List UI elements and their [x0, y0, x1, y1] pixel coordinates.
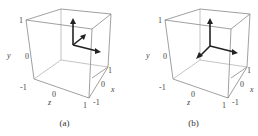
tick-x-mid: 0 — [240, 81, 244, 89]
z-arrow — [73, 37, 83, 45]
panel-a: 1 y 0 -1 0 z 1 -1 0 x 1 (a) — [0, 0, 129, 136]
axis-label-z: z — [187, 99, 190, 107]
axis-label-x: x — [250, 86, 254, 94]
tick-y-bot: -1 — [159, 84, 166, 92]
tick-x-start: -1 — [232, 99, 239, 107]
tick-x-end: 1 — [108, 67, 112, 75]
x-arrow — [73, 45, 97, 51]
tick-y-mid: 0 — [163, 53, 167, 61]
tick-x-start: -1 — [93, 99, 100, 107]
tick-z-mid: 0 — [191, 91, 195, 99]
tick-z-end: 1 — [83, 102, 87, 110]
caption-a: (a) — [0, 118, 129, 128]
axis-label-z: z — [48, 99, 51, 107]
axis-label-x: x — [111, 86, 115, 94]
tick-z-mid: 0 — [52, 91, 56, 99]
panel-b: 1 y 0 -1 0 z 1 -1 0 x 1 (b) — [129, 0, 258, 136]
tick-y-bot: -1 — [20, 84, 27, 92]
axis-label-y: y — [7, 52, 11, 60]
tick-y-top: 1 — [19, 17, 23, 25]
tick-z-end: 1 — [222, 102, 226, 110]
tick-x-end: 1 — [247, 67, 251, 75]
tick-x-mid: 0 — [101, 81, 105, 89]
cube-plot-b — [129, 0, 258, 136]
tick-y-mid: 0 — [25, 53, 29, 61]
tick-y-top: 1 — [158, 17, 162, 25]
axis-label-y: y — [146, 52, 150, 60]
caption-b: (b) — [129, 118, 258, 128]
